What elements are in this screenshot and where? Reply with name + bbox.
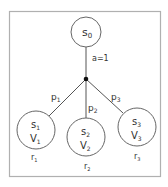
tree-diagram: s0 a=1 p1 p2 p3 s1 V1 r1 s2 V2 r2 s3 V3 … <box>0 0 168 187</box>
child-node-1: s1 V1 <box>17 111 55 149</box>
child-node-3: s3 V3 <box>118 108 156 146</box>
child-node-2: s2 V2 <box>67 118 105 156</box>
chance-node-dot <box>84 77 89 82</box>
root-node: s0 <box>71 17 101 47</box>
action-label: a=1 <box>92 54 109 63</box>
reward-label-3: r3 <box>134 152 140 162</box>
reward-label-1: r1 <box>31 153 37 163</box>
prob-label-1: p1 <box>51 92 61 103</box>
prob-label-2: p2 <box>88 103 98 114</box>
reward-label-2: r2 <box>84 162 90 172</box>
prob-label-3: p3 <box>111 92 121 103</box>
